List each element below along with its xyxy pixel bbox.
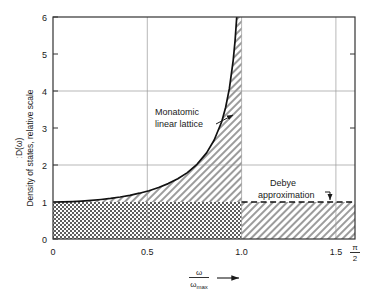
xtick-label-1p5: 1.5 [330,247,343,257]
xtick-label-1p0: 1.0 [235,247,248,257]
ytick-label-0: 0 [42,235,47,245]
ytick-label-5: 5 [42,50,47,60]
ytick-label-3: 3 [42,124,47,134]
y-axis-title-line1: ːD(ω) [14,137,24,158]
debye-label-line1: Debye [270,178,296,188]
x-axis-title: ω ωmax [189,268,239,290]
xtick-label-0: 0 [50,247,55,257]
xtick-label-pi-over-2: π 2 [350,243,360,263]
monatomic-label-line1: Monatomic [155,107,200,117]
omega-denominator: ωmax [190,280,208,290]
debye-tail-region [242,202,355,239]
ytick-label-1: 1 [42,198,47,208]
y-axis-title: ːD(ω) Density of states, relative scale [14,89,35,206]
ytick-label-4: 4 [42,87,47,97]
monatomic-label-line2: linear lattice [155,119,203,129]
omega-numerator: ω [196,268,202,277]
xtick-label-0p5: 0.5 [141,247,154,257]
y-axis-title-line2: Density of states, relative scale [25,89,35,206]
pi-numerator: π [352,243,358,252]
density-of-states-figure: 6 5 4 3 2 1 0 0 0.5 1.0 1.5 π 2 ːD(ω) De… [0,0,373,300]
ytick-label-6: 6 [42,13,47,23]
pi-denominator: 2 [353,254,358,263]
ytick-label-2: 2 [42,161,47,171]
debye-label-line2: approximation [258,190,315,200]
chart-svg: 6 5 4 3 2 1 0 0 0.5 1.0 1.5 π 2 ːD(ω) De… [0,0,373,300]
